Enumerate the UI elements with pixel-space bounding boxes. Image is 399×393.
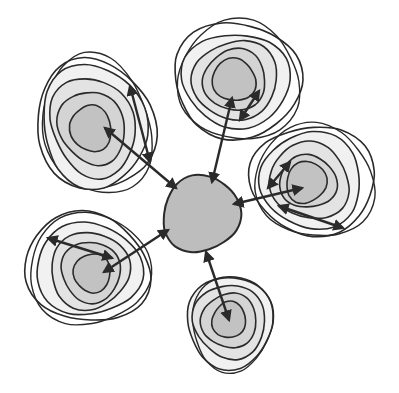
diagram-canvas [0,0,399,393]
cluster-bottom [187,277,273,374]
cluster-top [175,18,303,140]
cluster-lower-left [16,202,161,337]
contour-diagram [0,0,399,393]
cluster-upper-left [15,37,175,213]
